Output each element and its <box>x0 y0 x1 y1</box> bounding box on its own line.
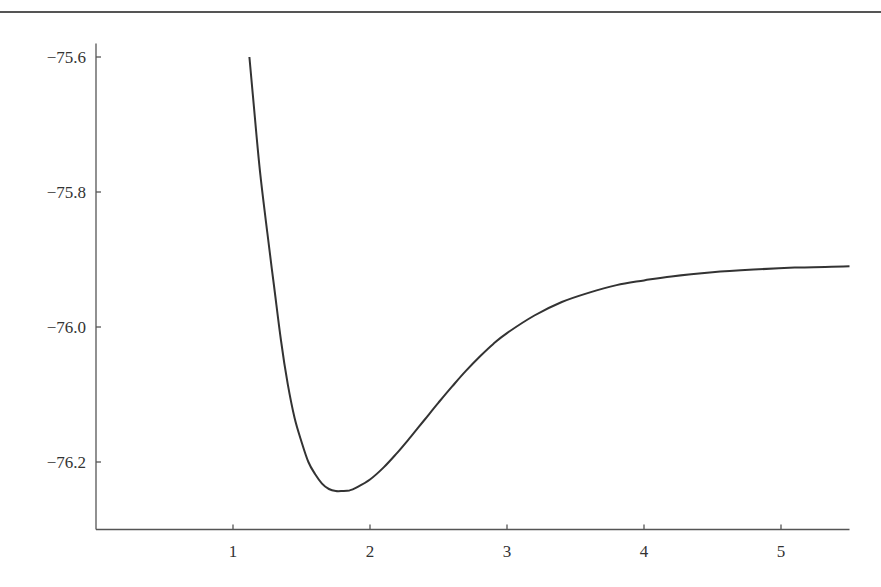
y-tick-label: −75.6 <box>47 48 86 67</box>
chart: 12345−75.6−75.8−76.0−76.2 <box>0 0 881 587</box>
x-tick-label: 4 <box>640 542 649 561</box>
ticks: 12345−75.6−75.8−76.0−76.2 <box>47 48 786 561</box>
x-tick-label: 3 <box>503 542 512 561</box>
data-series-line <box>249 57 849 491</box>
y-tick-label: −76.0 <box>47 318 86 337</box>
x-tick-label: 1 <box>229 542 238 561</box>
x-tick-label: 2 <box>366 542 375 561</box>
x-tick-label: 5 <box>777 542 786 561</box>
y-tick-label: −75.8 <box>47 183 86 202</box>
axes <box>96 44 850 530</box>
y-tick-label: −76.2 <box>47 453 86 472</box>
